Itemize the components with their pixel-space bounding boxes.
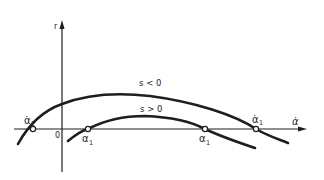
curve-s-positive — [68, 116, 255, 148]
point-alpha-1-right — [202, 126, 207, 131]
r-axis-label: r — [54, 22, 58, 31]
label-alpha-dot-1: α̇ 1 — [252, 114, 263, 127]
x-axis-label: α̇ — [292, 116, 299, 127]
svg-text:1: 1 — [206, 139, 210, 147]
point-alpha-dot-1 — [253, 126, 258, 131]
svg-text:2: 2 — [31, 120, 35, 128]
point-alpha-1-left — [85, 126, 90, 131]
label-alpha-1-left: α 1 — [82, 133, 93, 147]
curve-label-s-negative: s < 0 — [139, 78, 161, 88]
r-axis — [60, 20, 65, 172]
arrowhead-right-icon — [298, 127, 307, 132]
svg-text:1: 1 — [259, 119, 263, 127]
svg-text:α: α — [199, 133, 206, 144]
svg-text:α: α — [82, 133, 89, 144]
svg-text:1: 1 — [89, 139, 93, 147]
svg-text:α̇: α̇ — [24, 115, 31, 126]
curve-label-s-positive: s > 0 — [140, 104, 162, 114]
origin-label: 0 — [55, 131, 60, 140]
phase-diagram: r 0 α̇ s < 0 s > 0 α̇ 2 α 1 α 1 α̇ 1 — [0, 0, 324, 180]
svg-text:α̇: α̇ — [252, 114, 259, 125]
arrowhead-up-icon — [60, 20, 65, 29]
label-alpha-1-right: α 1 — [199, 133, 210, 147]
